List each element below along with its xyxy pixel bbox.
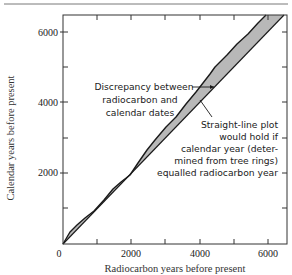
annotation-straight-line-leader (200, 100, 212, 117)
x-tick-label-2000: 2000 (121, 248, 141, 259)
x-axis-title: Radiocarbon years before present (105, 263, 246, 274)
annotation-straight-line: Straight-line plot would hold if calenda… (157, 100, 279, 178)
x-tick-label-4000: 4000 (190, 248, 210, 259)
y-axis-title: Calendar years before present (5, 75, 16, 200)
x-axis-ticks-bottom (97, 239, 268, 244)
annotation-straight-line-line1: Straight-line plot (201, 119, 278, 130)
y-tick-label-6000: 6000 (38, 27, 58, 38)
y-tick-label-2000: 2000 (38, 167, 58, 178)
annotation-straight-line-line5: equalled radiocarbon year (157, 167, 278, 178)
annotation-discrepancy-line3: calendar dates (106, 107, 175, 118)
y-tick-label-4000: 4000 (38, 97, 58, 108)
annotation-discrepancy-line1: Discrepancy between (94, 81, 193, 92)
y-axis-ticks-left (60, 32, 68, 208)
annotation-straight-line-line3: calendar year (deter- (181, 143, 278, 154)
annotation-discrepancy-line2: radiocarbon and (102, 94, 177, 105)
annotation-straight-line-line4: mined from tree rings) (174, 155, 278, 166)
x-axis-ticks-top (97, 15, 268, 20)
x-tick-label-0: 0 (57, 248, 62, 259)
y-axis-ticks-right (282, 32, 287, 208)
x-tick-label-6000: 6000 (258, 248, 278, 259)
annotation-straight-line-line2: would hold if (219, 131, 279, 142)
calibration-chart: 0 2000 4000 6000 2000 4000 6000 Radiocar… (0, 0, 292, 275)
